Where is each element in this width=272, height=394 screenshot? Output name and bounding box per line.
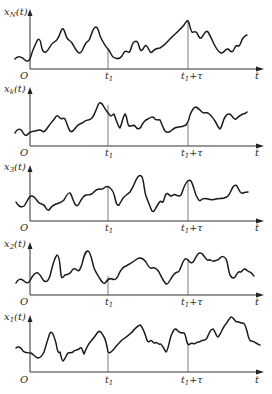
y-axis-arrow-icon xyxy=(28,315,33,322)
t-label-xN: t xyxy=(255,70,260,81)
t1tau-label-x3: t1+τ xyxy=(181,222,203,235)
sample-curve-xk xyxy=(15,103,247,136)
origin-label-x2: O xyxy=(20,296,28,307)
y-axis-arrow-icon xyxy=(28,9,33,16)
t1-label-x2: t1 xyxy=(105,296,113,309)
y-axis-label-x1: x1(t) xyxy=(4,311,26,324)
t-label-x2: t xyxy=(255,296,260,307)
sample-curve-xN xyxy=(15,21,247,61)
panel-xk: xk(t) O t1 t1+τ t xyxy=(4,83,264,160)
origin-label-xk: O xyxy=(20,147,28,158)
origin-label-x1: O xyxy=(20,374,28,385)
origin-label-x3: O xyxy=(20,222,28,233)
t-label-xk: t xyxy=(255,147,260,158)
sample-curve-x3 xyxy=(16,176,248,212)
random-process-ensemble-diagram: xN(t) O t1 t1+τ t xk(t) O t1 t1+τ t x3(t… xyxy=(0,0,272,394)
t-label-x1: t xyxy=(255,374,260,385)
t1tau-label-x1: t1+τ xyxy=(181,374,203,387)
sample-curve-x1 xyxy=(16,317,260,361)
panel-xN: xN(t) O t1 t1+τ t xyxy=(4,6,264,83)
t1-label-xN: t1 xyxy=(105,70,113,83)
t1-label-x1: t1 xyxy=(105,374,113,387)
t1-label-x3: t1 xyxy=(105,222,113,235)
panel-x3: x3(t) O t1 t1+τ t xyxy=(4,161,264,235)
y-axis-label-x3: x3(t) xyxy=(4,161,26,174)
y-axis-arrow-icon xyxy=(28,87,33,94)
t1-label-xk: t1 xyxy=(105,147,113,160)
t1tau-label-xk: t1+τ xyxy=(181,147,203,160)
y-axis-arrow-icon xyxy=(28,242,33,249)
y-axis-arrow-icon xyxy=(28,165,33,172)
panel-x1: x1(t) O t1 t1+τ t xyxy=(4,311,264,387)
origin-label-xN: O xyxy=(20,70,28,81)
y-axis-label-x2: x2(t) xyxy=(4,238,26,251)
sample-curve-x2 xyxy=(16,251,254,284)
y-axis-label-xk: xk(t) xyxy=(4,83,26,96)
t1tau-label-x2: t1+τ xyxy=(181,296,203,309)
y-axis-label-xN: xN(t) xyxy=(4,6,28,19)
t-label-x3: t xyxy=(255,222,260,233)
panel-x2: x2(t) O t1 t1+τ t xyxy=(4,238,264,309)
t1tau-label-xN: t1+τ xyxy=(181,70,203,83)
